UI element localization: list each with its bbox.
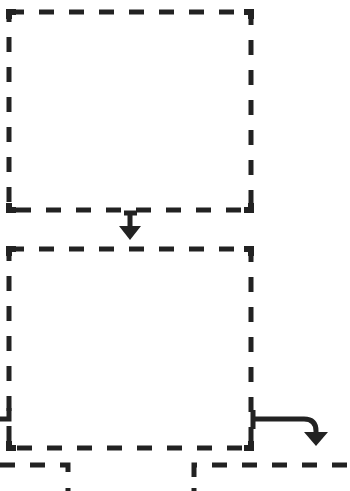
arrow-down-head-icon <box>119 226 141 240</box>
dashed-box-1 <box>9 12 251 210</box>
dashed-box-2 <box>9 249 251 448</box>
dashed-box-3-partial <box>0 465 68 477</box>
arrow-right-down-head-icon <box>304 432 328 446</box>
flow-diagram <box>0 0 350 491</box>
left-bracket-connector <box>0 408 9 419</box>
dashed-box-4-partial <box>194 465 350 477</box>
